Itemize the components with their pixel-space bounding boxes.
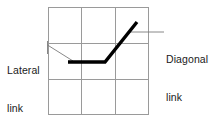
lateral-link-label: Lateral link <box>7 39 40 124</box>
lateral-and-diagonal-link-path <box>68 22 137 62</box>
diagram-canvas: Lateral link Diagonal link <box>0 0 221 124</box>
diagonal-link-label-line1: Diagonal <box>166 53 208 66</box>
lateral-link-label-line2: link <box>7 102 40 115</box>
lateral-leader-line <box>48 45 74 61</box>
diagonal-link-label: Diagonal link <box>166 28 208 124</box>
lateral-link-label-line1: Lateral <box>7 64 40 77</box>
diagonal-link-label-line2: link <box>166 91 208 104</box>
brace-member-polyline <box>68 22 137 62</box>
leader-lines-group <box>48 32 165 61</box>
